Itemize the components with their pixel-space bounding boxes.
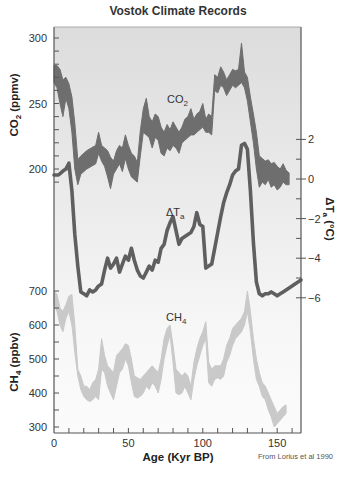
ch4-axis-title: CH4 (ppbv) (8, 332, 23, 392)
co2-tick-label: 250 (29, 98, 47, 110)
ch4-tick-label: 500 (29, 353, 47, 365)
temp-tick-label: 2 (308, 133, 314, 145)
co2-tick-label: 300 (29, 32, 47, 44)
temp-tick-label: −2 (308, 213, 321, 225)
x-axis-title: Age (Kyr BP) (143, 451, 214, 463)
x-tick-label: 100 (194, 437, 212, 449)
x-tick-label: 150 (268, 437, 286, 449)
temp-axis-title: ΔTa (°C) (321, 197, 336, 241)
x-tick-label: 0 (51, 437, 57, 449)
temp-tick-label: 0 (308, 173, 314, 185)
ch4-tick-label: 600 (29, 319, 47, 331)
ch4-tick-label: 700 (29, 285, 47, 297)
co2-tick-label: 200 (29, 163, 47, 175)
ch4-tick-label: 400 (29, 387, 47, 399)
source-credit: From Lorius et al 1990 (258, 452, 333, 461)
ch4-tick-label: 300 (29, 421, 47, 433)
x-tick-label: 50 (122, 437, 134, 449)
vostok-chart: 20025030030040050060070020−2−4−605010015… (0, 0, 350, 477)
temp-tick-label: −6 (308, 292, 321, 304)
temp-tick-label: −4 (308, 252, 321, 264)
co2-axis-title: CO2 (ppmv) (8, 73, 23, 136)
